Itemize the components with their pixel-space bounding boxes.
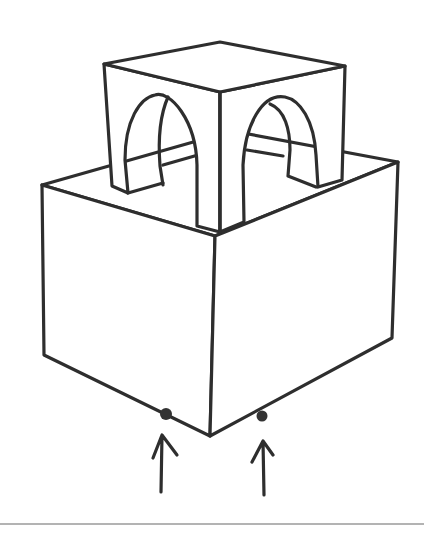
right-support-point: [257, 411, 268, 422]
structure-sketch: [0, 0, 439, 538]
force-arrows: [153, 435, 273, 495]
sketch-svg: [0, 0, 439, 538]
left-up-arrow-icon: [153, 435, 177, 492]
left-support-point: [160, 408, 172, 420]
right-up-arrow-icon: [252, 441, 273, 495]
